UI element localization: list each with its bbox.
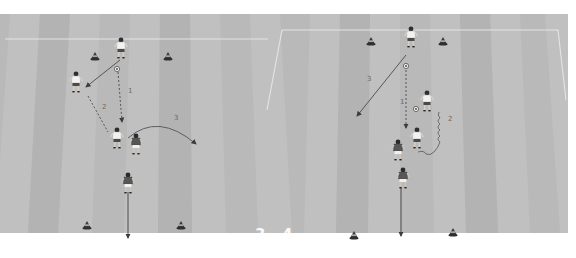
drill-diagrams: 1 2 3 1 2 3 [0,0,576,258]
step-label-2: 2 [448,115,452,123]
step-label-1: 1 [400,98,404,106]
ball-icon [413,106,418,111]
step-label-3: 3 [367,75,371,83]
step-label-1: 1 [128,87,132,95]
ball-icon [403,63,408,68]
figure-label-4: 4 [282,226,292,244]
step-label-2: 2 [102,103,106,111]
figure-label-3: 3 [255,226,265,244]
ball-icon [114,66,119,71]
step-label-3: 3 [174,114,178,122]
pitch-background [0,14,568,233]
